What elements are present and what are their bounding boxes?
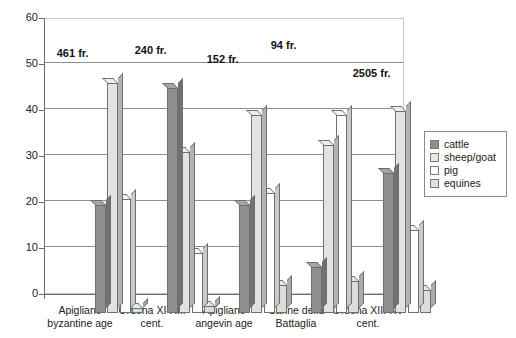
y-axis-tick-label: 40 bbox=[12, 104, 38, 115]
data-label-group-2: 240 fr. bbox=[135, 44, 167, 56]
bar-side-face bbox=[250, 195, 255, 308]
bar-side-face bbox=[118, 73, 123, 308]
data-label-group-5: 2505 fr. bbox=[353, 67, 391, 79]
bar-side-face bbox=[322, 257, 327, 308]
legend-item-pig[interactable]: pig bbox=[430, 165, 502, 176]
legend-item-label: cattle bbox=[444, 139, 469, 150]
bar-equines-group-1 bbox=[132, 308, 143, 313]
legend-item-label: pig bbox=[444, 165, 458, 176]
bar-front-face bbox=[167, 88, 178, 313]
y-axis-tick bbox=[39, 248, 45, 249]
bar-front-face bbox=[239, 205, 250, 313]
bar-cattle-group-4 bbox=[311, 267, 322, 313]
bar-side-face bbox=[178, 78, 183, 308]
y-axis-tick-label: 60 bbox=[12, 12, 38, 23]
legend-item-label: equines bbox=[444, 178, 481, 189]
figure-caption bbox=[8, 331, 338, 338]
bar-cattle-group-3 bbox=[239, 205, 250, 313]
bar-side-face bbox=[359, 271, 364, 308]
equines-swatch-icon bbox=[430, 179, 439, 188]
data-label-group-1: 461 fr. bbox=[57, 47, 89, 59]
bar-side-face bbox=[334, 135, 339, 308]
category-label-line: cent. bbox=[324, 317, 412, 330]
bar-side-face bbox=[275, 183, 280, 308]
y-axis-tick bbox=[39, 110, 45, 111]
bar-side-face bbox=[431, 280, 436, 308]
bar-side-face bbox=[106, 195, 111, 308]
y-axis-labels: 0102030405060 bbox=[6, 0, 38, 338]
bar-side-face bbox=[262, 105, 267, 308]
y-axis-tick-label: 30 bbox=[12, 150, 38, 161]
legend-item-cattle[interactable]: cattle bbox=[430, 139, 502, 150]
legend-item-sheep-goat[interactable]: sheep/goat bbox=[430, 152, 502, 163]
chart-figure: 461 fr.240 fr.152 fr.94 fr.2505 fr. 0102… bbox=[0, 0, 516, 338]
bar-side-face bbox=[394, 163, 399, 308]
bar-cattle-group-1 bbox=[95, 205, 106, 313]
bar-series-container bbox=[88, 37, 448, 313]
y-axis-tick bbox=[39, 64, 45, 65]
bar-cattle-group-2 bbox=[167, 88, 178, 313]
bar-side-face bbox=[406, 101, 411, 308]
y-axis-tick-label: 20 bbox=[12, 196, 38, 207]
bar-front-face bbox=[204, 306, 215, 313]
bar-equines-group-2 bbox=[204, 306, 215, 313]
y-axis-tick-label: 50 bbox=[12, 58, 38, 69]
bar-side-face bbox=[131, 189, 136, 308]
plot-area: 461 fr.240 fr.152 fr.94 fr.2505 fr. bbox=[44, 18, 404, 294]
bar-front-face bbox=[383, 173, 394, 313]
y-axis-tick bbox=[39, 202, 45, 203]
y-axis-tick bbox=[39, 156, 45, 157]
legend-item-equines[interactable]: equines bbox=[430, 178, 502, 189]
bar-side-face bbox=[190, 142, 195, 308]
bar-front-face bbox=[311, 267, 322, 313]
bar-front-face bbox=[95, 205, 106, 313]
y-axis-tick-label: 0 bbox=[12, 288, 38, 299]
chart-legend: cattlesheep/goatpigequines bbox=[424, 131, 507, 197]
pig-swatch-icon bbox=[430, 166, 439, 175]
data-label-group-3: 152 fr. bbox=[207, 53, 239, 65]
legend-item-label: sheep/goat bbox=[444, 152, 496, 163]
chart-plot-region: 461 fr.240 fr.152 fr.94 fr.2505 fr. 0102… bbox=[0, 0, 410, 338]
bar-front-face bbox=[132, 308, 143, 313]
bar-side-face bbox=[347, 105, 352, 308]
sheep-goat-swatch-icon bbox=[430, 153, 439, 162]
data-label-group-4: 94 fr. bbox=[271, 39, 297, 51]
bar-side-face bbox=[419, 220, 424, 308]
y-axis-tick-label: 10 bbox=[12, 242, 38, 253]
cattle-swatch-icon bbox=[430, 140, 439, 149]
y-axis-tick bbox=[39, 18, 45, 19]
bar-cattle-group-5 bbox=[383, 173, 394, 313]
